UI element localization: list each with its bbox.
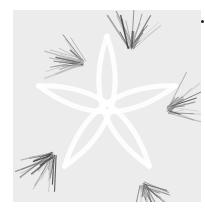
generative-art-svg [13, 10, 201, 202]
hatch-line [129, 35, 130, 48]
artwork-canvas [13, 10, 201, 202]
corner-dot [201, 20, 204, 23]
